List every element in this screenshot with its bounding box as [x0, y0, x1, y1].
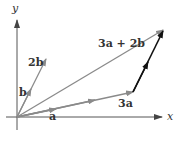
vector-3a: [17, 92, 133, 117]
y-axis-label: y: [11, 2, 19, 15]
label-b: b: [19, 86, 27, 99]
label-a: a: [49, 110, 56, 123]
label-2b: 2b: [28, 56, 44, 69]
x-axis-label: x: [167, 110, 174, 123]
label-3a-plus-2b: 3a + 2b: [98, 37, 145, 50]
vector-addition-diagram: x y 2b b a 3a 3a + 2b: [0, 0, 181, 145]
label-3a: 3a: [118, 97, 133, 110]
